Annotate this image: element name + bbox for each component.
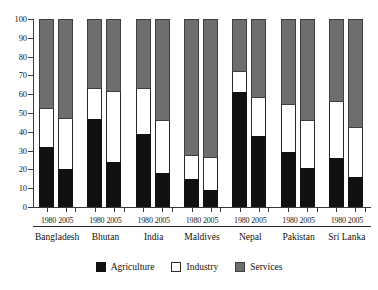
legend-swatch-agriculture-icon xyxy=(96,262,106,272)
group-label-pakistan: 19802005Pakistan xyxy=(274,216,322,243)
year-label: 1980 xyxy=(234,216,249,225)
y-axis-tick-label: 0 xyxy=(1,203,27,212)
legend-label: Industry xyxy=(186,262,218,272)
country-label: Nepal xyxy=(226,232,274,243)
bar-segment-services xyxy=(203,19,218,158)
group-label-india: 19802005India xyxy=(130,216,178,243)
year-label: 1980 xyxy=(282,216,297,225)
year-label: 1980 xyxy=(89,216,104,225)
bar-segment-agriculture xyxy=(106,162,121,207)
bar-segment-agriculture xyxy=(87,119,102,207)
y-axis-tick-label: 90 xyxy=(1,34,27,43)
x-axis-tick xyxy=(114,208,115,212)
bar-segment-agriculture xyxy=(136,134,151,207)
y-axis-tick-label: 70 xyxy=(1,71,27,80)
y-axis-tick-label: 20 xyxy=(1,165,27,174)
bar-maldives-1980 xyxy=(184,19,199,207)
group-label-bangladesh: 19802005Bangladesh xyxy=(33,216,81,243)
bar-bangladesh-1980 xyxy=(39,19,54,207)
x-axis-tick xyxy=(66,208,67,212)
bar-segment-services xyxy=(329,19,344,102)
group-label-sri-lanka: 19802005Sri Lanka xyxy=(323,216,371,243)
x-axis-tick xyxy=(124,208,125,212)
bar-segment-services xyxy=(106,19,121,92)
x-axis-tick xyxy=(75,208,76,212)
plot-area xyxy=(33,19,371,207)
bar-segment-services xyxy=(300,19,315,121)
y-axis-tick-label: 30 xyxy=(1,147,27,156)
bar-segment-industry xyxy=(281,105,296,152)
legend-swatch-industry-icon xyxy=(171,262,181,272)
year-label: 2005 xyxy=(106,216,121,225)
country-label: Sri Lanka xyxy=(323,232,371,243)
group-label-maldives: 19802005Maldives xyxy=(178,216,226,243)
country-label: Bhutan xyxy=(81,232,129,243)
chart-legend: AgricultureIndustryServices xyxy=(0,262,378,272)
x-axis-tick xyxy=(172,208,173,212)
bar-segment-services xyxy=(348,19,363,128)
y-axis-tick-label: 60 xyxy=(1,90,27,99)
bar-segment-agriculture xyxy=(300,168,315,207)
year-label-row: 19802005 xyxy=(81,216,129,227)
y-axis-tick-label: 10 xyxy=(1,184,27,193)
bar-pakistan-1980 xyxy=(281,19,296,207)
group-label-nepal: 19802005Nepal xyxy=(226,216,274,243)
bar-bhutan-2005 xyxy=(106,19,121,207)
bar-nepal-1980 xyxy=(232,19,247,207)
bar-segment-services xyxy=(87,19,102,89)
bar-segment-agriculture xyxy=(329,158,344,207)
bar-segment-agriculture xyxy=(58,169,73,207)
bar-bhutan-1980 xyxy=(87,19,102,207)
group-label-bhutan: 19802005Bhutan xyxy=(81,216,129,243)
x-axis-tick xyxy=(220,208,221,212)
year-label: 1980 xyxy=(186,216,201,225)
country-label: Maldives xyxy=(178,232,226,243)
x-axis-line xyxy=(33,207,371,208)
x-axis-tick xyxy=(355,208,356,212)
bar-segment-agriculture xyxy=(39,147,54,207)
bar-maldives-2005 xyxy=(203,19,218,207)
legend-label: Services xyxy=(250,262,282,272)
bar-india-1980 xyxy=(136,19,151,207)
bar-segment-industry xyxy=(300,121,315,168)
bar-segment-industry xyxy=(203,158,218,190)
x-axis-tick xyxy=(259,208,260,212)
bar-segment-industry xyxy=(251,98,266,136)
legend-swatch-services-icon xyxy=(235,262,245,272)
year-label: 2005 xyxy=(251,216,266,225)
bar-segment-industry xyxy=(58,119,73,170)
country-label: Bangladesh xyxy=(33,232,81,243)
bar-segment-services xyxy=(184,19,199,156)
x-axis-tick xyxy=(288,208,289,212)
bar-segment-agriculture xyxy=(184,179,199,207)
bar-segment-industry xyxy=(39,109,54,147)
bar-segment-industry xyxy=(348,128,363,177)
bar-segment-agriculture xyxy=(203,190,218,207)
country-label: Pakistan xyxy=(274,232,322,243)
bar-segment-industry xyxy=(155,121,170,174)
y-axis-labels: 0102030405060708090100 xyxy=(0,0,27,290)
x-axis-tick xyxy=(365,208,366,212)
x-axis-tick xyxy=(336,208,337,212)
x-axis-tick xyxy=(162,208,163,212)
x-axis-tick xyxy=(95,208,96,212)
country-label: India xyxy=(130,232,178,243)
bar-segment-agriculture xyxy=(251,136,266,207)
year-label: 2005 xyxy=(300,216,315,225)
bar-segment-industry xyxy=(329,102,344,158)
legend-item-agriculture: Agriculture xyxy=(96,262,155,272)
x-axis-tick xyxy=(47,208,48,212)
bar-segment-services xyxy=(232,19,247,72)
bar-segment-industry xyxy=(106,92,121,162)
x-axis-tick xyxy=(268,208,269,212)
y-axis-tick-label: 80 xyxy=(1,53,27,62)
x-axis-tick xyxy=(211,208,212,212)
bar-segment-services xyxy=(281,19,296,105)
year-label-row: 19802005 xyxy=(323,216,371,227)
stacked-bar-chart: 0102030405060708090100 19802005Banglades… xyxy=(0,0,378,290)
bar-pakistan-2005 xyxy=(300,19,315,207)
year-label-row: 19802005 xyxy=(226,216,274,227)
year-label: 1980 xyxy=(41,216,56,225)
year-label-row: 19802005 xyxy=(274,216,322,227)
year-label: 1980 xyxy=(138,216,153,225)
